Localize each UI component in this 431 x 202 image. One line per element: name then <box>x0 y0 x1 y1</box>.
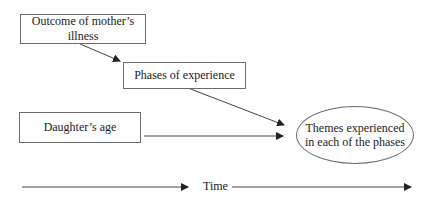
node-outcome-of-mothers-illness: Outcome of mother’s illness <box>20 14 146 44</box>
node-label: Daughter’s age <box>44 120 117 135</box>
node-themes-experienced: Themes experienced in each of the phases <box>296 106 414 164</box>
node-label-line2: in each of the phases <box>305 135 405 149</box>
arrow-phases-to-themes <box>188 88 284 125</box>
node-label: Phases of experience <box>134 68 235 83</box>
node-label-line1: Themes experienced <box>305 121 405 135</box>
arrow-outcome-to-phases <box>80 44 120 61</box>
time-axis-label: Time <box>203 179 228 194</box>
node-phases-of-experience: Phases of experience <box>123 62 246 89</box>
node-label: Outcome of mother’s illness <box>21 14 145 44</box>
node-daughters-age: Daughter’s age <box>19 112 141 143</box>
